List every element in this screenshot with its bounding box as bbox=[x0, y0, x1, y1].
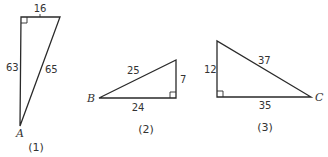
right-angle-marker bbox=[21, 17, 27, 23]
vertex-label-a: A bbox=[15, 127, 24, 140]
triangle-caption: (2) bbox=[138, 123, 154, 136]
right-angle-marker bbox=[217, 91, 223, 97]
side-label-left: 63 bbox=[6, 62, 19, 73]
side-label-hypotenuse: 25 bbox=[127, 65, 140, 76]
right-triangles-diagram: 16 63 65 A (1) 25 7 24 B (2) 12 37 35 C … bbox=[0, 0, 328, 157]
side-label-hypotenuse: 65 bbox=[45, 64, 58, 75]
side-label-bottom: 24 bbox=[132, 102, 145, 113]
triangle-caption: (3) bbox=[257, 121, 273, 134]
triangle-1: 16 63 65 A (1) bbox=[6, 3, 60, 154]
side-label-bottom: 35 bbox=[259, 100, 272, 111]
triangle-3-shape bbox=[217, 41, 311, 97]
triangle-caption: (1) bbox=[28, 141, 44, 154]
side-label-top: 16 bbox=[34, 3, 47, 14]
side-label-left: 12 bbox=[204, 64, 217, 75]
side-label-hypotenuse: 37 bbox=[258, 55, 271, 66]
right-angle-marker bbox=[170, 92, 176, 98]
vertex-label-c: C bbox=[315, 91, 324, 104]
triangle-3: 12 37 35 C (3) bbox=[204, 41, 324, 134]
triangle-2: 25 7 24 B (2) bbox=[86, 60, 186, 136]
side-label-right: 7 bbox=[180, 74, 186, 85]
vertex-label-b: B bbox=[86, 92, 95, 105]
